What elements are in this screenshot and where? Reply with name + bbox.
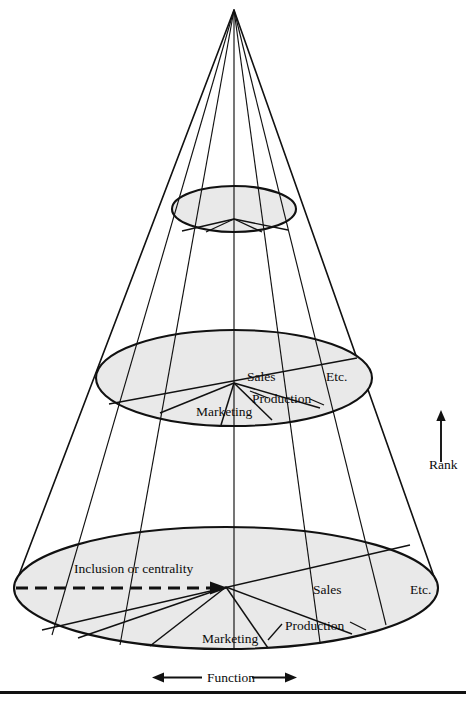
cone-drawing xyxy=(0,0,466,704)
base-disc-label-inclusion: Inclusion or centrality xyxy=(74,562,193,576)
middle-disc-label-etc: Etc. xyxy=(326,370,347,384)
cone-diagram-figure: Sales Etc. Production Marketing Inclusio… xyxy=(0,0,466,704)
rank-axis-label: Rank xyxy=(429,458,458,472)
middle-disc-label-marketing: Marketing xyxy=(196,405,252,419)
cone-right-edge xyxy=(234,10,438,588)
middle-disc-label-sales: Sales xyxy=(247,370,276,384)
base-disc-label-sales: Sales xyxy=(313,583,342,597)
middle-disc-label-production: Production xyxy=(252,392,311,406)
base-disc-label-marketing: Marketing xyxy=(202,632,258,646)
rank-axis-arrow xyxy=(436,410,445,462)
base-disc-label-etc: Etc. xyxy=(410,583,431,597)
function-axis-label: Function xyxy=(207,671,255,685)
cone-left-edge xyxy=(14,10,234,588)
base-disc-label-production: Production xyxy=(285,619,344,633)
cone-outline xyxy=(14,10,438,588)
